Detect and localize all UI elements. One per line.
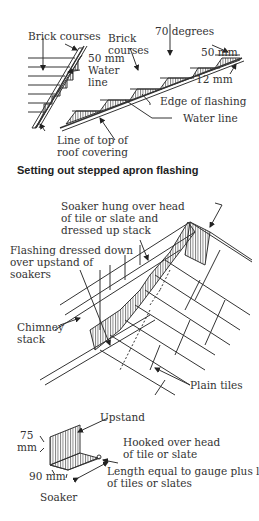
label-soaker-3: dressed up stack xyxy=(61,224,151,236)
label-12mm: 12 mm xyxy=(196,73,233,85)
label-roof-line-1: Line of top of xyxy=(57,134,128,146)
label-chimney-1: Chimney xyxy=(17,321,64,333)
label-flashing-1: Flashing dressed down xyxy=(10,244,133,256)
label-50mm-right: 50 mm xyxy=(201,46,238,58)
label-flashing-3: soakers xyxy=(10,268,51,280)
label-50mm-left: 50 mm xyxy=(88,52,125,64)
label-water-line-left-1: Water xyxy=(88,64,120,76)
label-70-degrees: 70 degrees xyxy=(155,25,214,37)
label-edge-of-flashing: Edge of flashing xyxy=(160,95,246,107)
label-upstand: Upstand xyxy=(100,411,145,423)
label-water-line-left-2: line xyxy=(88,76,108,88)
label-flashing-2: over upstand of xyxy=(10,256,93,268)
caption-soaker: Soaker xyxy=(40,491,77,503)
label-hooked-2: of tile or slate xyxy=(123,448,197,460)
label-brick-courses-right-1: Brick xyxy=(108,32,136,44)
label-length-2: of tiles or slates xyxy=(107,477,192,489)
label-90mm: 90 mm xyxy=(29,470,66,482)
label-length-1: Length equal to gauge plus lap xyxy=(107,465,259,477)
label-hooked-1: Hooked over head xyxy=(123,436,220,448)
label-75mm-2: mm xyxy=(17,441,37,453)
label-75mm-1: 75 xyxy=(20,429,33,441)
label-roof-line-2: roof covering xyxy=(57,146,128,158)
label-soaker-1: Soaker hung over head xyxy=(61,200,185,212)
label-water-line-right: Water line xyxy=(183,112,238,124)
label-plain-tiles: Plain tiles xyxy=(190,379,243,391)
label-brick-courses-left: Brick courses xyxy=(28,30,101,42)
label-chimney-2: stack xyxy=(17,333,45,345)
caption-figure-1: Setting out stepped apron flashing xyxy=(17,164,199,176)
cut-off-text-line xyxy=(10,515,100,521)
label-soaker-2: of tile or slate and xyxy=(61,212,158,224)
